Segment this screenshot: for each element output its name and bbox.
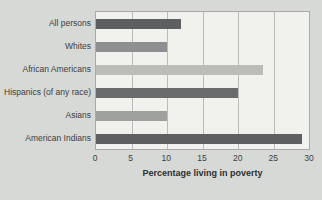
gridline-10 xyxy=(167,12,168,149)
gridline-15 xyxy=(203,12,204,149)
tick-label-15: 15 xyxy=(192,153,212,163)
plot-area xyxy=(95,11,310,150)
gridline-5 xyxy=(132,12,133,149)
tick-label-20: 20 xyxy=(228,153,248,163)
gridline-25 xyxy=(274,12,275,149)
bar-whites xyxy=(96,42,167,52)
tick-label-10: 10 xyxy=(156,153,176,163)
gridline-20 xyxy=(238,12,239,149)
x-axis-title: Percentage living in poverty xyxy=(95,168,310,178)
category-label-1: Whites xyxy=(0,41,91,51)
tick-label-25: 25 xyxy=(263,153,283,163)
bar-american-indians xyxy=(96,134,302,144)
bar-hispanics-of-any-race xyxy=(96,88,238,98)
category-label-0: All persons xyxy=(0,18,91,28)
category-label-4: Asians xyxy=(0,110,91,120)
category-label-3: Hispanics (of any race) xyxy=(0,87,91,97)
bar-asians xyxy=(96,111,167,121)
bar-african-americans xyxy=(96,65,263,75)
tick-label-5: 5 xyxy=(121,153,141,163)
tick-label-0: 0 xyxy=(85,153,105,163)
category-label-2: African Americans xyxy=(0,64,91,74)
tick-label-30: 30 xyxy=(299,153,319,163)
bar-all-persons xyxy=(96,19,181,29)
category-label-5: American Indians xyxy=(0,133,91,143)
poverty-bar-chart: All personsWhitesAfrican AmericansHispan… xyxy=(0,0,322,200)
